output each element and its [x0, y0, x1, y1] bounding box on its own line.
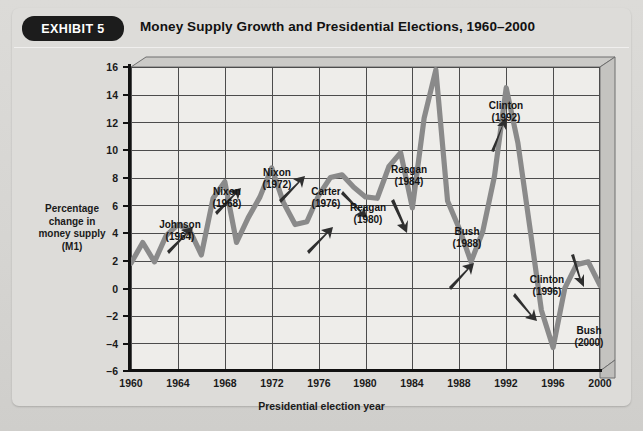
- ytick-mark-8: [123, 177, 129, 179]
- ytick-mark-16: [123, 66, 129, 68]
- ytick-label-m6: –6: [88, 365, 118, 377]
- ytick-mark-m4: [123, 343, 129, 345]
- annotation-year: (1972): [249, 179, 305, 191]
- xtick-label-1968: 1968: [202, 377, 248, 389]
- annotation-year: (1980): [340, 214, 396, 226]
- annotation-clinton-1996: Clinton (1996): [518, 274, 576, 297]
- y-axis-title-line1: Percentage: [22, 203, 122, 216]
- ytick-mark-4: [123, 232, 129, 234]
- y-axis-title-line2: change in: [22, 216, 122, 229]
- x-axis-line: [128, 369, 602, 372]
- chart-container: 16 14 12 10 8 6 4 2 0 –2 –4 –6 1960 1964…: [0, 0, 643, 431]
- annotation-name: Clinton: [518, 274, 576, 286]
- exhibit-page: EXHIBIT 5 Money Supply Growth and Presid…: [0, 0, 643, 431]
- y-axis-line: [128, 64, 131, 372]
- annotation-bush-1988: Bush (1988): [440, 226, 494, 249]
- annotation-bush-2000: Bush (2000): [562, 325, 616, 348]
- y-axis-title: Percentage change in money supply (M1): [22, 203, 122, 253]
- ytick-mark-10: [123, 149, 129, 151]
- annotation-johnson-1964: Johnson (1964): [148, 219, 212, 242]
- annotation-name: Bush: [440, 226, 494, 238]
- ytick-mark-6: [123, 205, 129, 207]
- xtick-label-1992: 1992: [483, 377, 529, 389]
- annotation-name: Nixon: [199, 186, 255, 198]
- ytick-label-8: 8: [88, 172, 118, 184]
- annotation-name: Carter: [298, 186, 354, 198]
- annotation-year: (2000): [562, 337, 616, 349]
- annotation-year: (1984): [381, 176, 437, 188]
- xtick-label-1964: 1964: [155, 377, 201, 389]
- ytick-mark-14: [123, 94, 129, 96]
- ytick-label-m2: –2: [88, 310, 118, 322]
- ytick-mark-2: [123, 260, 129, 262]
- annotation-name: Reagan: [340, 202, 396, 214]
- xtick-label-1960: 1960: [108, 377, 154, 389]
- y-axis-title-line3: money supply: [22, 228, 122, 241]
- arrow-1996: [513, 293, 537, 321]
- ytick-label-2: 2: [88, 255, 118, 267]
- ytick-label-m4: –4: [88, 338, 118, 350]
- xtick-label-1976: 1976: [296, 377, 342, 389]
- ytick-mark-12: [123, 122, 129, 124]
- ytick-mark-m2: [123, 315, 129, 317]
- x-axis-title: Presidential election year: [0, 400, 643, 412]
- annotation-year: (1968): [199, 198, 255, 210]
- xtick-label-1984: 1984: [389, 377, 435, 389]
- annotation-name: Clinton: [477, 100, 535, 112]
- ytick-mark-0: [123, 288, 129, 290]
- annotation-name: Bush: [562, 325, 616, 337]
- annotation-year: (1988): [440, 238, 494, 250]
- xtick-label-2000: 2000: [577, 377, 623, 389]
- annotation-nixon-1968: Nixon (1968): [199, 186, 255, 209]
- annotation-reagan-1984: Reagan (1984): [381, 164, 437, 187]
- annotation-name: Reagan: [381, 164, 437, 176]
- arrow-1976: [307, 227, 333, 254]
- annotation-reagan-1980: Reagan (1980): [340, 202, 396, 225]
- xtick-label-1988: 1988: [436, 377, 482, 389]
- xtick-label-1996: 1996: [530, 377, 576, 389]
- annotation-year: (1992): [477, 112, 535, 124]
- ytick-label-14: 14: [88, 89, 118, 101]
- ytick-mark-m6: [123, 370, 129, 372]
- ytick-label-0: 0: [88, 283, 118, 295]
- annotation-nixon-1972: Nixon (1972): [249, 167, 305, 190]
- xtick-label-1980: 1980: [342, 377, 388, 389]
- annotation-clinton-1992: Clinton (1992): [477, 100, 535, 123]
- y-axis-title-line4: (M1): [22, 241, 122, 254]
- annotation-year: (1964): [148, 231, 212, 243]
- arrow-1988: [449, 263, 474, 290]
- ytick-label-16: 16: [88, 61, 118, 73]
- annotation-name: Nixon: [249, 167, 305, 179]
- annotation-year: (1996): [518, 286, 576, 298]
- annotation-name: Johnson: [148, 219, 212, 231]
- ytick-label-12: 12: [88, 117, 118, 129]
- xtick-label-1972: 1972: [249, 377, 295, 389]
- ytick-label-10: 10: [88, 144, 118, 156]
